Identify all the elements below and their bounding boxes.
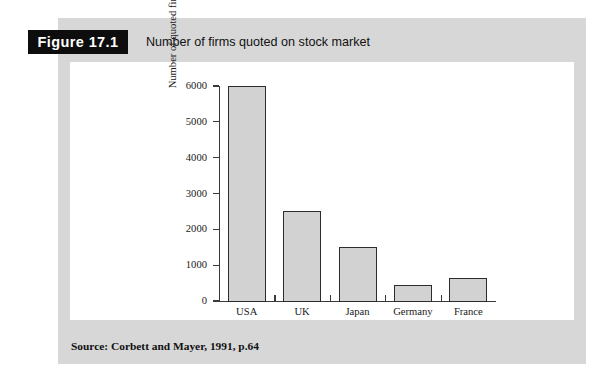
x-axis-label-germany: Germany xyxy=(385,306,440,318)
y-axis-tick-label: 1000 xyxy=(161,260,207,270)
y-axis-tick-label: 0 xyxy=(161,296,207,306)
chart-plot-area: Number of quoted firms 01000200030004000… xyxy=(70,62,574,320)
y-axis-tick-label: 5000 xyxy=(161,117,207,127)
figure-header: Figure 17.1 Number of firms quoted on st… xyxy=(58,18,586,62)
x-axis-tick xyxy=(385,295,386,302)
y-axis-tick xyxy=(213,121,219,122)
y-axis-tick-label-wrap: 5000 xyxy=(155,117,207,127)
x-axis-label-france: France xyxy=(441,306,496,318)
y-axis-tick-label-wrap: 4000 xyxy=(155,153,207,163)
y-axis-tick-label-wrap: 6000 xyxy=(155,81,207,91)
y-axis-tick xyxy=(213,229,219,230)
bar-germany xyxy=(394,285,432,302)
x-axis-label-usa: USA xyxy=(219,306,274,318)
bar-chart: Number of quoted firms 01000200030004000… xyxy=(70,62,574,320)
source-note: Source: Corbett and Mayer, 1991, p.64 xyxy=(71,340,259,352)
y-axis-tick-label: 6000 xyxy=(161,81,207,91)
y-axis-line xyxy=(219,86,220,302)
y-axis-tick xyxy=(213,85,219,86)
bar-france xyxy=(449,278,487,302)
x-axis-label-japan: Japan xyxy=(330,306,385,318)
y-axis-tick xyxy=(213,300,219,301)
x-axis-tick xyxy=(330,295,331,302)
y-axis-tick xyxy=(213,157,219,158)
y-axis-tick xyxy=(213,193,219,194)
figure-panel: Figure 17.1 Number of firms quoted on st… xyxy=(58,18,586,364)
y-axis-tick-label: 3000 xyxy=(161,189,207,199)
y-axis-tick-label: 2000 xyxy=(161,224,207,234)
y-axis-tick-label-wrap: 0 xyxy=(155,296,207,306)
x-axis-tick xyxy=(441,295,442,302)
bar-uk xyxy=(283,211,321,302)
x-axis-tick xyxy=(274,295,275,302)
bar-usa xyxy=(228,86,266,302)
y-axis-tick-label-wrap: 3000 xyxy=(155,189,207,199)
figure-number-badge: Figure 17.1 xyxy=(28,30,128,54)
x-axis-label-uk: UK xyxy=(274,306,329,318)
y-axis-tick xyxy=(213,265,219,266)
y-axis-title: Number of quoted firms xyxy=(166,0,180,112)
y-axis-tick-label-wrap: 2000 xyxy=(155,224,207,234)
y-axis-tick-label: 4000 xyxy=(161,153,207,163)
bar-japan xyxy=(339,247,377,302)
y-axis-tick-label-wrap: 1000 xyxy=(155,260,207,270)
